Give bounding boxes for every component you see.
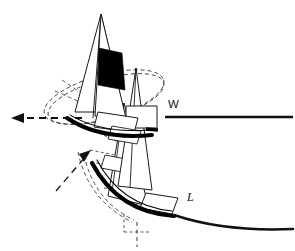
label-windward: W	[168, 98, 179, 110]
label-leeward: L	[186, 190, 194, 204]
diagram-canvas: W L	[0, 0, 295, 251]
sailing-heel-diagram: W L	[0, 0, 295, 251]
mainsail-black-band	[98, 48, 125, 90]
